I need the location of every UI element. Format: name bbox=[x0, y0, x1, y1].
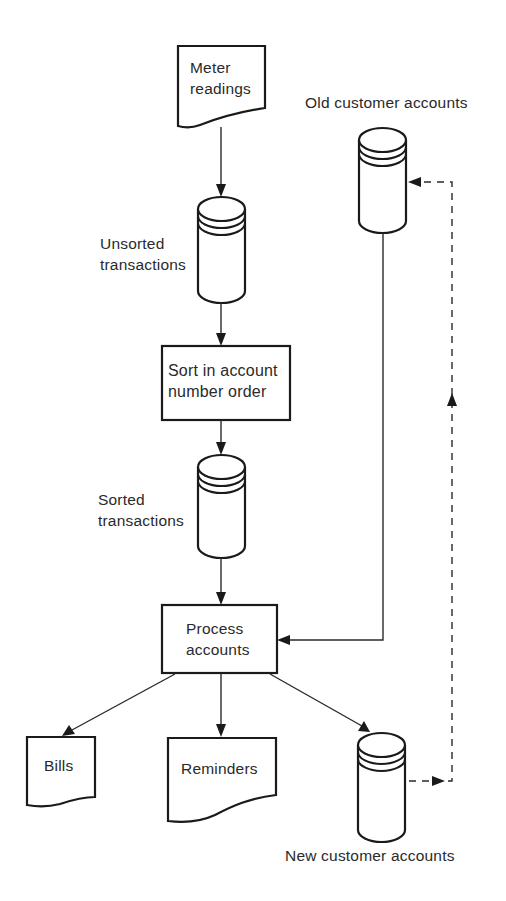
process-accounts-label: Process accounts bbox=[186, 618, 250, 660]
meter-readings-line2: readings bbox=[190, 78, 251, 99]
arrowhead-icon bbox=[216, 333, 226, 346]
reminders-document-shape bbox=[168, 738, 276, 822]
unsorted-transactions-label: Unsorted transactions bbox=[100, 233, 186, 275]
arrowhead-icon bbox=[216, 184, 226, 197]
arrowhead-icon bbox=[216, 442, 226, 455]
edge-old-accounts-to-process bbox=[288, 233, 383, 640]
sorted-transactions-line1: Sorted bbox=[98, 489, 184, 510]
arrowhead-icon bbox=[277, 635, 290, 645]
arrowhead-icon bbox=[432, 776, 445, 786]
arrowhead-icon bbox=[216, 592, 226, 605]
arrowhead-icon bbox=[62, 725, 75, 736]
edge-process-to-bills bbox=[72, 674, 175, 730]
new-customer-accounts-disk-shape bbox=[358, 733, 405, 842]
old-customer-accounts-label: Old customer accounts bbox=[305, 92, 468, 113]
sort-process-label: Sort in account number order bbox=[168, 360, 278, 402]
sorted-transactions-line2: transactions bbox=[98, 510, 184, 531]
arrowhead-icon bbox=[216, 724, 226, 737]
arrowhead-icon bbox=[447, 393, 457, 406]
sort-process-line2: number order bbox=[168, 381, 278, 402]
arrowhead-icon bbox=[408, 177, 421, 187]
sort-process-line1: Sort in account bbox=[168, 360, 278, 381]
edge-new-to-old-accounts-dashed bbox=[408, 177, 457, 786]
sorted-transactions-disk-shape bbox=[198, 455, 245, 558]
unsorted-transactions-line2: transactions bbox=[100, 254, 186, 275]
process-accounts-line1: Process bbox=[186, 618, 250, 639]
meter-readings-line1: Meter bbox=[190, 57, 251, 78]
old-customer-accounts-disk-shape bbox=[359, 128, 406, 233]
process-accounts-line2: accounts bbox=[186, 639, 250, 660]
unsorted-transactions-disk-shape bbox=[198, 197, 245, 303]
edge-process-to-new-accounts bbox=[270, 674, 362, 726]
unsorted-transactions-line1: Unsorted bbox=[100, 233, 186, 254]
meter-readings-label: Meter readings bbox=[190, 57, 251, 99]
bills-label: Bills bbox=[44, 755, 73, 776]
reminders-label: Reminders bbox=[181, 758, 258, 779]
arrowhead-icon bbox=[358, 721, 370, 732]
sorted-transactions-label: Sorted transactions bbox=[98, 489, 184, 531]
new-customer-accounts-label: New customer accounts bbox=[285, 845, 455, 866]
